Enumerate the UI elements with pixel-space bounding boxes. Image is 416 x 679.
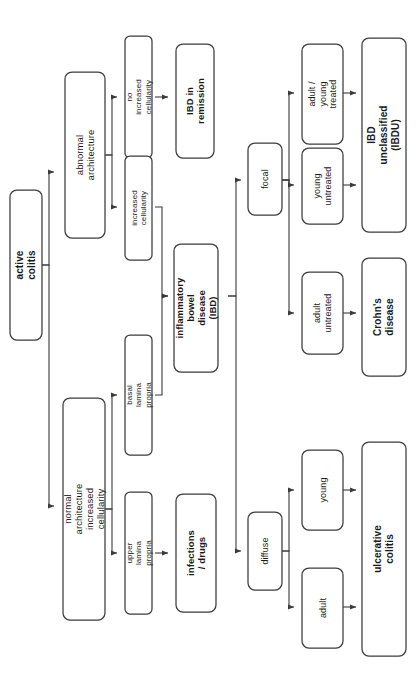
node-adult[interactable]: [302, 568, 343, 648]
node-active-colitis[interactable]: [10, 190, 42, 340]
node-layer: [10, 36, 406, 656]
node-inflammatory-bowel-disease[interactable]: [174, 244, 218, 372]
node-focal[interactable]: [248, 143, 282, 215]
node-adult-untreated[interactable]: [302, 272, 343, 354]
node-increased-cellularity[interactable]: [125, 156, 152, 260]
node-ibd-in-remission[interactable]: [176, 44, 214, 158]
node-ulcerative-colitis[interactable]: [362, 442, 406, 656]
node-abnormal-architecture[interactable]: [65, 72, 105, 238]
node-no-increased-cellularity[interactable]: [125, 36, 152, 158]
node-basal-lamina-propria[interactable]: [125, 335, 152, 455]
node-diffuse[interactable]: [248, 512, 282, 590]
node-ibd-unclassified[interactable]: [362, 38, 406, 232]
node-young-untreated[interactable]: [302, 148, 343, 224]
flowchart-svg: [0, 0, 416, 679]
node-upper-lamina-propria[interactable]: [125, 492, 152, 614]
node-crohns-disease[interactable]: [362, 258, 406, 376]
node-adult-young-treated[interactable]: [302, 44, 343, 144]
node-young[interactable]: [302, 450, 343, 530]
node-normal-architecture[interactable]: [63, 398, 105, 620]
node-infections-drugs[interactable]: [176, 494, 216, 612]
diagram-canvas: active colitis abnormal architecture nor…: [0, 0, 416, 679]
